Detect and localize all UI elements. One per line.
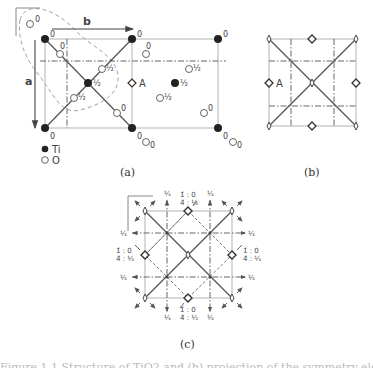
svg-text:0: 0 bbox=[208, 104, 213, 113]
svg-text:0: 0 bbox=[146, 42, 151, 51]
svg-text:0: 0 bbox=[50, 30, 55, 39]
svg-text:1̄ : 0: 1̄ : 0 bbox=[116, 247, 132, 255]
svg-text:¼: ¼ bbox=[248, 274, 255, 282]
svg-text:1̄ : 0: 1̄ : 0 bbox=[180, 306, 196, 314]
svg-text:½: ½ bbox=[106, 64, 114, 73]
svg-text:¼: ¼ bbox=[164, 190, 171, 198]
svg-text:½: ½ bbox=[193, 64, 201, 73]
svg-text:4̄ : ¼: 4̄ : ¼ bbox=[180, 314, 198, 322]
caption-a: (a) bbox=[120, 166, 135, 179]
axis-a-label: a bbox=[25, 75, 32, 88]
figure-canvas: b a 0 000 000 ½½ 0½ ½0 0½ ½0 bbox=[0, 0, 373, 368]
svg-text:½: ½ bbox=[164, 93, 172, 102]
svg-text:¼: ¼ bbox=[207, 190, 214, 198]
svg-text:1̄ : 0: 1̄ : 0 bbox=[243, 247, 259, 255]
svg-text:¼: ¼ bbox=[248, 230, 255, 238]
svg-text:0: 0 bbox=[60, 42, 65, 51]
legend: Ti O bbox=[42, 144, 61, 166]
axis-b-label: b bbox=[83, 15, 91, 28]
caption-c: (c) bbox=[180, 338, 195, 351]
svg-text:¼: ¼ bbox=[207, 314, 214, 322]
svg-text:¼: ¼ bbox=[164, 314, 171, 322]
svg-text:½: ½ bbox=[180, 79, 188, 88]
panel-c: ¼ ¼ ¼ ¼ ¼ ¼ ¼ ¼ 1̄ : 0 4̄ : ¼ 1̄ : 0 4̄ … bbox=[116, 190, 261, 351]
caption-b: (b) bbox=[304, 166, 320, 179]
svg-text:0: 0 bbox=[121, 104, 126, 113]
svg-text:4̄ : ¼: 4̄ : ¼ bbox=[116, 255, 134, 263]
svg-text:0: 0 bbox=[137, 30, 142, 39]
svg-text:1̄ : 0: 1̄ : 0 bbox=[180, 191, 196, 199]
svg-text:¼: ¼ bbox=[120, 274, 127, 282]
svg-text:0: 0 bbox=[35, 15, 40, 24]
svg-text:4̄ : ¼: 4̄ : ¼ bbox=[180, 199, 198, 207]
svg-text:0: 0 bbox=[150, 141, 155, 150]
svg-text:Ti: Ti bbox=[51, 144, 61, 155]
svg-text:A: A bbox=[139, 78, 146, 89]
svg-text:¼: ¼ bbox=[120, 230, 127, 238]
svg-text:A: A bbox=[276, 78, 283, 89]
svg-text:0: 0 bbox=[137, 132, 142, 141]
svg-text:0: 0 bbox=[50, 132, 55, 141]
symmetry-marker-a: A bbox=[128, 78, 146, 89]
clipped-figure-caption: Figure 1.1 Structure of TiO2 and (b) pro… bbox=[0, 362, 373, 368]
panel-b: A (b) bbox=[265, 35, 360, 179]
svg-text:O: O bbox=[52, 155, 60, 166]
svg-text:0: 0 bbox=[223, 30, 228, 39]
svg-text:½: ½ bbox=[93, 79, 101, 88]
panel-a: b a 0 000 000 ½½ 0½ ½0 0½ ½0 bbox=[16, 8, 242, 179]
svg-text:0: 0 bbox=[237, 141, 242, 150]
svg-text:½: ½ bbox=[78, 93, 86, 102]
svg-text:4̄ : ¼: 4̄ : ¼ bbox=[243, 255, 261, 263]
svg-text:0: 0 bbox=[223, 132, 228, 141]
